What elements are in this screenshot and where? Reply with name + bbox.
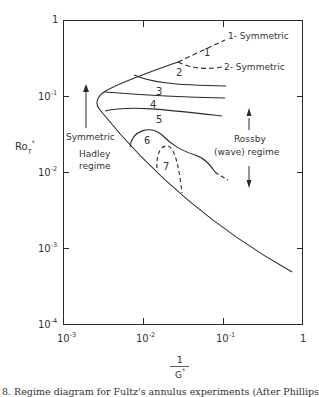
sym-2-label: 2- Symmetric [224, 62, 285, 72]
region-label-3: 3 [156, 86, 162, 97]
boundary-4-5 [105, 108, 222, 116]
svg-text:(wave) regime: (wave) regime [214, 147, 280, 157]
svg-text:Rossby: Rossby [234, 134, 266, 144]
regime-diagram-figure: 1 10-1 10-2 10-3 10-4 10-3 10-2 10-1 1 R… [0, 0, 319, 397]
svg-text:G*: G* [175, 367, 186, 380]
svg-text:regime: regime [79, 161, 111, 171]
x-tick-1: 1 [300, 333, 306, 344]
region-7-boundary [157, 146, 182, 193]
rossby-regime-annotation: Rossby (wave) regime [214, 108, 280, 188]
y-tick-labels: 1 10-1 10-2 10-3 10-4 [38, 14, 58, 330]
region-label-5: 5 [156, 114, 162, 125]
x-tick-1e-3: 10-3 [57, 331, 76, 344]
y-tick-1e-3: 10-3 [38, 241, 57, 254]
x-tick-1e-2: 10-2 [136, 331, 155, 344]
y-tick-1e-2: 10-2 [38, 165, 57, 178]
symmetric-boundary-labels: 1- Symmetric 2- Symmetric [224, 31, 289, 72]
region-label-4: 4 [150, 99, 156, 110]
down-arrow-icon [247, 180, 252, 188]
x-tick-1e-1: 10-1 [216, 331, 235, 344]
boundary-3-4 [105, 92, 225, 98]
region-label-6: 6 [144, 135, 150, 146]
region-label-2: 2 [176, 67, 182, 78]
region-labels: 1 2 3 4 5 6 7 [144, 47, 210, 172]
svg-text:1: 1 [177, 355, 183, 365]
sym-1-label: 1- Symmetric [228, 31, 289, 41]
regime-diagram-svg: 1 10-1 10-2 10-3 10-4 10-3 10-2 10-1 1 R… [0, 0, 319, 397]
up-arrow-icon [83, 84, 89, 92]
svg-text:Hadley: Hadley [79, 149, 111, 159]
y-axis-label: RoT* [15, 139, 36, 156]
region-label-1: 1 [204, 47, 210, 58]
svg-text:Symmetric: Symmetric [66, 132, 115, 142]
x-tick-labels: 10-3 10-2 10-1 1 [57, 331, 306, 344]
boundary-5-6-dashed [215, 172, 228, 180]
y-tick-1e-1: 10-1 [38, 89, 57, 102]
y-tick-1e-4: 10-4 [38, 317, 57, 330]
sym-2-boundary [178, 62, 222, 68]
up-arrow-icon [247, 108, 252, 116]
hadley-regime-annotation: Symmetric Hadley regime [66, 84, 115, 171]
figure-caption: 8. Regime diagram for Fultz's annulus ex… [2, 386, 319, 397]
boundary-5-6 [130, 130, 215, 172]
y-tick-1: 1 [52, 14, 58, 25]
x-axis-label: 1 G* [170, 355, 189, 380]
sym-1-boundary [178, 40, 225, 62]
region-label-7: 7 [163, 161, 169, 172]
